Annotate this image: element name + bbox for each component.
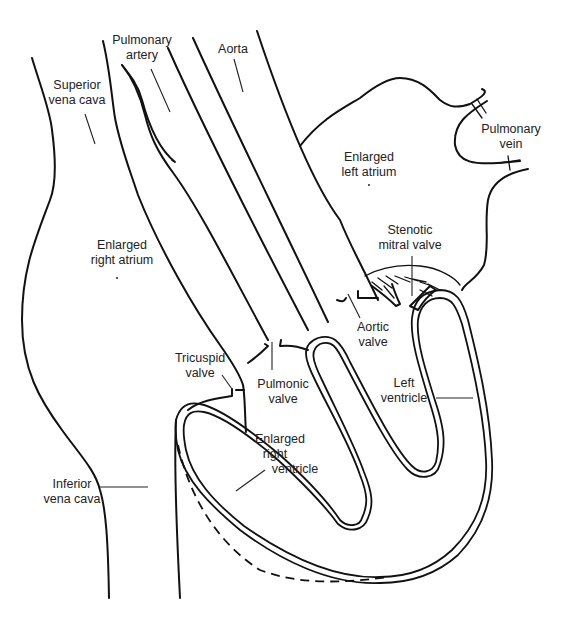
left-atrium-marker — [368, 184, 370, 186]
pulmonic-valve-cusp-right — [280, 340, 308, 350]
pulmonary-artery-branch — [122, 65, 175, 162]
label-pulmonic-valve: Pulmonic valve — [257, 377, 308, 407]
label-stenotic-mitral-valve: Stenotic mitral valve — [378, 223, 441, 253]
heart-diagram: Superior vena cava Pulmonary artery Aort… — [0, 0, 570, 621]
pulmonary-artery-wall-right — [168, 48, 308, 330]
label-left-ventricle: Left ventricle — [381, 376, 428, 406]
label-pulmonary-artery: Pulmonary artery — [112, 33, 172, 63]
pointer-superior-vena-cava — [85, 114, 95, 144]
pointer-aorta — [234, 59, 243, 92]
left-atrium-right-wall — [462, 169, 528, 290]
label-aortic-valve: Aortic valve — [357, 320, 389, 350]
pointer-pulmonary-artery — [151, 69, 170, 112]
right-atrium-outer-wall — [22, 58, 109, 598]
pulmonic-valve-cusp-left — [248, 344, 268, 363]
left-atrium-outer-wall — [300, 78, 485, 146]
aorta-wall-left — [193, 38, 328, 322]
label-tricuspid-valve: Tricuspid valve — [175, 351, 225, 381]
aortic-valve-cusp-left — [337, 298, 346, 301]
label-enlarged-right-atrium: Enlarged right atrium — [91, 238, 154, 268]
label-pulmonary-vein: Pulmonary vein — [481, 122, 541, 152]
label-inferior-vena-cava: Inferior vena cava — [44, 477, 101, 507]
tricuspid-valve — [188, 389, 244, 410]
label-enlarged-right-ventricle: Enlarged right ventricle — [242, 432, 319, 477]
right-atrium-marker — [116, 277, 118, 279]
label-superior-vena-cava: Superior vena cava — [49, 78, 106, 108]
label-enlarged-left-atrium: Enlarged left atrium — [342, 150, 397, 180]
label-aorta: Aorta — [218, 42, 248, 57]
